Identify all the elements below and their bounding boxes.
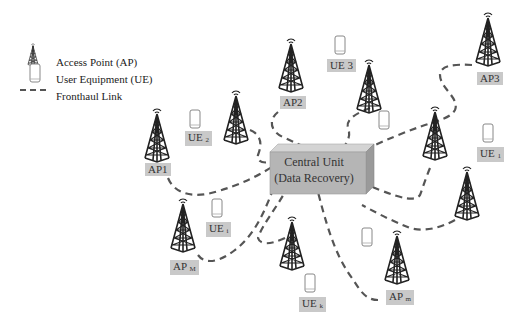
- central-unit-label: Central Unit (Data Recovery): [270, 154, 358, 186]
- tower-icon-ap2: [279, 39, 303, 92]
- ap-label-ap3: AP3: [477, 72, 503, 85]
- diagram-canvas: [0, 0, 521, 325]
- link-ap-right-lower: [362, 205, 455, 230]
- ue-label-ue2: UE 2: [185, 131, 212, 146]
- tower-icon-ap-upper-center: [357, 60, 381, 113]
- ap-label-apM: AP M: [170, 260, 199, 275]
- tower-icon-ap-right-lower: [455, 167, 479, 220]
- legend-phone-icon: [30, 64, 40, 82]
- phone-icon-uei: [212, 199, 222, 217]
- ue-label-ue3: UE 3: [327, 59, 356, 72]
- phone-icon-ue3: [335, 36, 345, 54]
- tower-icon-ap-upper-left: [224, 91, 248, 144]
- ap-label-apm: AP m: [386, 290, 414, 305]
- link-ap1: [168, 165, 275, 195]
- phone-icon-ue1: [483, 124, 493, 142]
- link-ap-right-upper: [366, 168, 430, 199]
- tower-icon-ap-lower-center: [280, 217, 304, 270]
- legend-label-fronthaul: Fronthaul Link: [56, 90, 122, 102]
- legend-tower-icon: [28, 44, 38, 66]
- tower-icon-ap-m: [385, 231, 409, 284]
- ue-label-uei: UE i: [206, 222, 231, 237]
- tower-icon-ap-M: [171, 199, 195, 252]
- ue-label-ue1: UE 1: [477, 147, 504, 162]
- ap-label-ap2: AP2: [280, 96, 306, 109]
- central-unit-line2: (Data Recovery): [270, 170, 358, 186]
- link-ap3: [360, 65, 472, 152]
- ap-label-ap1: AP1: [145, 163, 171, 176]
- tower-icon-ap3: [476, 13, 500, 66]
- legend-label-ap: Access Point (AP): [56, 56, 137, 68]
- central-unit-line1: Central Unit: [270, 154, 358, 170]
- phone-icon-ue2: [190, 110, 200, 128]
- ue-label-uek: UE k: [299, 297, 326, 312]
- tower-icon-ap-right-upper: [423, 107, 447, 160]
- phone-icon-ue-unlabeled-2: [362, 228, 372, 246]
- phone-icon-ue-unlabeled-1: [379, 111, 389, 129]
- legend-label-ue: User Equipment (UE): [56, 73, 153, 85]
- tower-icon-ap1: [145, 109, 169, 162]
- phone-icon-uek: [305, 274, 315, 292]
- link-ap-lower-center: [258, 192, 285, 243]
